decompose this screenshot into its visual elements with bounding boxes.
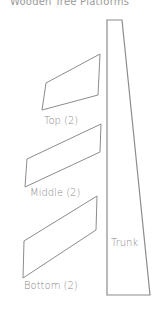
trunk-label: Trunk [111,237,138,248]
top-platform-shape [42,54,100,110]
middle-platform-shape [25,124,101,187]
bottom-platform-shape [23,196,97,278]
middle-label: Middle (2) [30,187,80,198]
trunk-shape [107,20,150,295]
platform-diagram [0,0,157,318]
top-label: Top (2) [44,115,78,126]
bottom-label: Bottom (2) [24,280,78,291]
